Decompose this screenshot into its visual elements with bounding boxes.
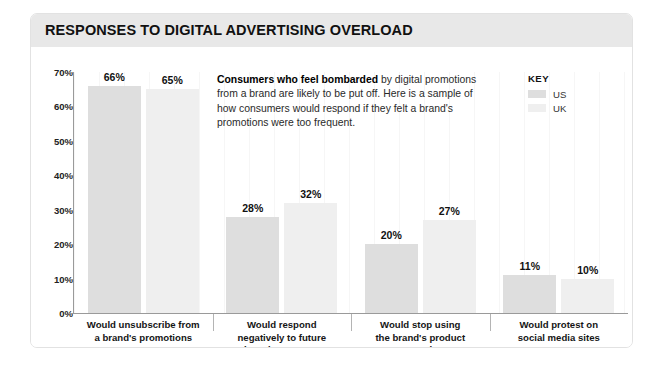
bar-uk[interactable] — [146, 89, 199, 313]
bar-value-label: 28% — [226, 202, 279, 214]
legend-swatch — [528, 90, 546, 98]
bar-value-label: 11% — [503, 260, 556, 272]
bar-value-label: 32% — [284, 188, 337, 200]
category-label-line: brand messages — [213, 344, 352, 348]
chart-area: 0%10%20%30%40%50%60%70% 66%65%28%32%20%2… — [31, 47, 632, 348]
category-label-line: a brand's promotions — [74, 332, 213, 345]
bar-value-label: 20% — [365, 229, 418, 241]
bar-group: 66%65% — [74, 72, 213, 313]
legend-item-uk[interactable]: UK — [528, 102, 608, 114]
bar-value-label: 66% — [88, 71, 141, 83]
annotation-lead: Consumers who feel bombarded — [217, 74, 378, 85]
category-label-line: Would protest on — [490, 319, 629, 332]
category-label-line: social media sites — [490, 332, 629, 345]
legend-swatch — [528, 104, 546, 112]
chart-card: RESPONSES TO DIGITAL ADVERTISING OVERLOA… — [30, 13, 633, 348]
bar-us[interactable] — [226, 217, 279, 313]
bar-uk[interactable] — [561, 279, 614, 313]
card-header: RESPONSES TO DIGITAL ADVERTISING OVERLOA… — [31, 14, 632, 47]
category-label-line: Would unsubscribe from — [74, 319, 213, 332]
bar-uk[interactable] — [284, 203, 337, 313]
category-label: Would stop usingthe brand's productor se… — [351, 319, 490, 348]
bar-value-label: 65% — [146, 74, 199, 86]
legend-item-us[interactable]: US — [528, 88, 608, 100]
legend: KEY USUK — [528, 73, 608, 116]
page-title: RESPONSES TO DIGITAL ADVERTISING OVERLOA… — [45, 22, 413, 38]
category-label-line: or service — [351, 344, 490, 348]
bar-uk[interactable] — [423, 220, 476, 313]
category-label-line: Would respond — [213, 319, 352, 332]
category-label: Would respondnegatively to futurebrand m… — [213, 319, 352, 348]
category-label-line: the brand's product — [351, 332, 490, 345]
legend-label: UK — [553, 103, 566, 114]
category-label: Would protest onsocial media sites — [490, 319, 629, 344]
annotation-text: Consumers who feel bombarded by digital … — [217, 73, 492, 131]
y-axis-tick-mark — [68, 313, 74, 314]
bar-us[interactable] — [88, 86, 141, 313]
bar-value-label: 10% — [561, 264, 614, 276]
legend-title: KEY — [528, 73, 608, 84]
category-label-line: Would stop using — [351, 319, 490, 332]
bar-value-label: 27% — [423, 205, 476, 217]
category-label: Would unsubscribe froma brand's promotio… — [74, 319, 213, 344]
bar-us[interactable] — [365, 244, 418, 313]
legend-rows: USUK — [528, 88, 608, 114]
legend-label: US — [553, 89, 566, 100]
category-label-line: negatively to future — [213, 332, 352, 345]
bar-us[interactable] — [503, 275, 556, 313]
